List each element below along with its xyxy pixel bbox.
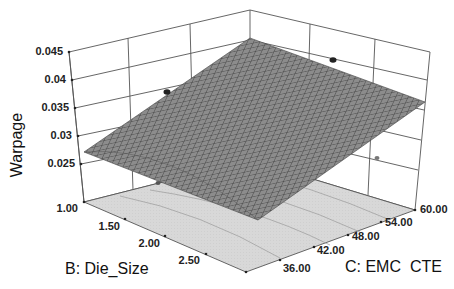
z-axis-title: Warpage (8, 113, 25, 177)
design-point (330, 57, 337, 63)
z-tick-0.045: 0.045 (35, 45, 63, 57)
z-tick-0.04: 0.04 (45, 73, 67, 85)
design-point (164, 89, 171, 95)
z-axis: 0.045 0.04 0.035 0.03 0.025 (35, 45, 84, 202)
design-point (156, 181, 161, 185)
design-point (375, 156, 380, 160)
y-tick-36.00: 36.00 (283, 262, 311, 274)
x-tick-2.00: 2.00 (139, 237, 160, 249)
surface-plot: 0.045 0.04 0.035 0.03 0.025 1.00 1.50 2.… (0, 0, 454, 289)
y-tick-48.00: 48.00 (352, 230, 380, 242)
z-tick-0.035: 0.035 (41, 101, 69, 113)
z-tick-0.025: 0.025 (47, 157, 75, 169)
x-tick-1.00: 1.00 (57, 202, 78, 214)
x-axis-title: B: Die_Size (65, 260, 149, 278)
y-axis-title: C: EMC CTE (345, 258, 442, 275)
y-tick-42.00: 42.00 (317, 244, 345, 256)
z-tick-0.03: 0.03 (51, 129, 72, 141)
x-tick-1.50: 1.50 (99, 220, 120, 232)
y-tick-60.00: 60.00 (420, 203, 448, 215)
y-tick-54.00: 54.00 (385, 216, 413, 228)
x-tick-2.50: 2.50 (179, 254, 200, 266)
